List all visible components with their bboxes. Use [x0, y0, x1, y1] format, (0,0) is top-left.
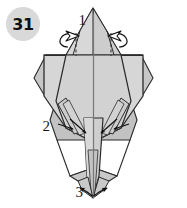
step-badge-label: 31 — [12, 15, 34, 34]
callout-label-3: 3 — [76, 184, 84, 200]
origami-diagram-page: 31 — [0, 0, 187, 208]
paper-model — [34, 8, 153, 198]
origami-figure: 31 — [0, 0, 187, 208]
step-number-badge: 31 — [6, 7, 40, 41]
callout-label-2: 2 — [43, 118, 51, 134]
callout-label-1: 1 — [79, 12, 87, 28]
